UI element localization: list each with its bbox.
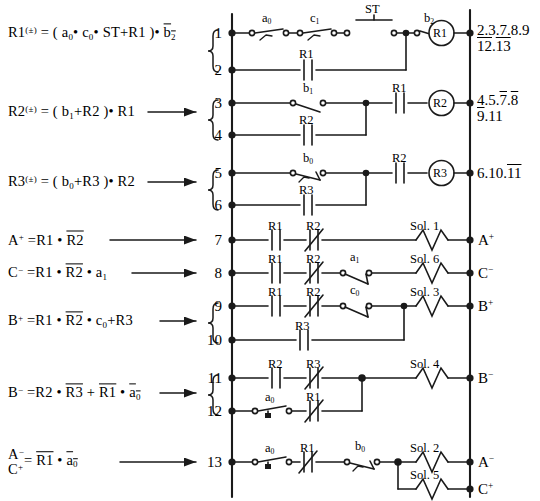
node-rung1-left (228, 29, 235, 36)
contact-label-b1-rung3: b1 (303, 81, 313, 96)
contact-label-r2-rung7: R2 (306, 219, 321, 234)
contact-label-r2-rung8: R2 (306, 252, 321, 267)
output-label-a-plus: A+ (478, 232, 494, 249)
contact-label-r2-rung4: R2 (299, 113, 314, 128)
contact-label-r2-rung11: R2 (268, 357, 283, 372)
equation-c-minus: C− =R1 • R2 • a1 (8, 264, 107, 281)
contact-label-b0-rung5: b0 (303, 151, 313, 166)
equation-b-plus: B+ =R1 • R2 • c0+R3 (8, 312, 133, 329)
contact-label-c0-rung9: c0 (350, 283, 359, 298)
output-label-c-plus: C+ (478, 481, 493, 498)
contact-label-r2-rung5: R2 (392, 151, 407, 166)
equation-b-minus: B− =R2 • R3 + R1 • a0 (8, 384, 141, 401)
solenoid-label-2: Sol. 2 (410, 441, 439, 456)
rung-number-1: 1 (200, 25, 222, 42)
node-rung1-right (466, 29, 473, 36)
solenoid-label-1: Sol. 1 (410, 219, 439, 234)
equation-r3: R3(±) = ( b0+R3 )• R2 (8, 173, 135, 190)
equation-r1: R1(±) = ( a0• c0• ST+R1 )• b2 (8, 24, 176, 41)
contact-label-a1-rung8: a1 (350, 250, 359, 265)
rung-number-6: 6 (200, 197, 222, 214)
solenoid-label-3: Sol. 3 (410, 285, 439, 300)
cross-reference-r2: 4.5.7.89.11 (477, 92, 518, 124)
rung-2 (228, 33, 406, 80)
equation-a-minus-c-plus: A−C+= R1 • a0 (8, 447, 78, 477)
equation-a-plus: A+ =R1 • R2 (8, 232, 84, 249)
coil-label-r3: R3 (433, 166, 447, 181)
coil-label-r2: R2 (433, 96, 447, 111)
contact-label-r1-rung7: R1 (268, 219, 283, 234)
contact-label-r1-rung9: R1 (268, 285, 283, 300)
rung-number-8: 8 (200, 265, 222, 282)
contact-label-r3-rung10: R3 (295, 319, 310, 334)
contact-label-st-rung1: ST (365, 2, 380, 17)
contact-label-b2-rung1: b2 (424, 11, 434, 26)
output-label-c-minus: C− (478, 265, 493, 282)
cross-reference-r1: 2.3.7.8.912.13 (477, 22, 530, 54)
ladder-diagram-canvas (0, 0, 540, 501)
contact-label-r1-rung3: R1 (392, 81, 407, 96)
contact-label-r2-rung9: R2 (306, 285, 321, 300)
solenoid-label-4: Sol. 4 (410, 357, 439, 372)
rung-number-3: 3 (200, 95, 222, 112)
contact-label-a0-rung12: a0 (265, 390, 274, 405)
rung-number-2: 2 (200, 62, 222, 79)
contact-label-a0-rung1: a0 (262, 11, 271, 26)
rung-4 (228, 103, 366, 145)
rung-number-7: 7 (200, 232, 222, 249)
rung-10 (228, 306, 404, 350)
contact-label-b0-rung13: b0 (355, 439, 365, 454)
contact-label-a0-rung13: a0 (265, 441, 274, 456)
cross-reference-r3: 6.10.11 (477, 165, 521, 181)
rung-number-5: 5 (200, 165, 222, 182)
equation-r2: R2(±) = ( b1+R2 )• R1 (8, 103, 135, 120)
rung-number-9: 9 (200, 298, 222, 315)
rung-number-10: 10 (196, 332, 222, 349)
contact-label-c1-rung1: c1 (310, 11, 319, 26)
solenoid-label-5: Sol. 5 (410, 468, 439, 483)
rung-6 (228, 173, 366, 215)
rung-number-13: 13 (196, 454, 222, 471)
output-label-b-minus: B− (478, 370, 493, 387)
output-label-b-plus: B+ (478, 298, 493, 315)
coil-label-r1: R1 (433, 26, 447, 41)
output-label-a-minus: A− (478, 454, 494, 471)
contact-label-r3-rung6: R3 (299, 183, 314, 198)
contact-label-r1-rung13: R1 (300, 441, 315, 456)
rung-12 (228, 378, 362, 422)
contact-label-r3-rung11: R3 (306, 357, 321, 372)
rung-number-12: 12 (196, 403, 222, 420)
contact-label-r1-rung12: R1 (306, 390, 321, 405)
rung-number-11: 11 (196, 370, 222, 387)
rung-number-4: 4 (200, 127, 222, 144)
contact-label-r1-rung2: R1 (299, 47, 314, 62)
solenoid-label-6: Sol. 6 (410, 252, 439, 267)
contact-label-r1-rung8: R1 (268, 252, 283, 267)
